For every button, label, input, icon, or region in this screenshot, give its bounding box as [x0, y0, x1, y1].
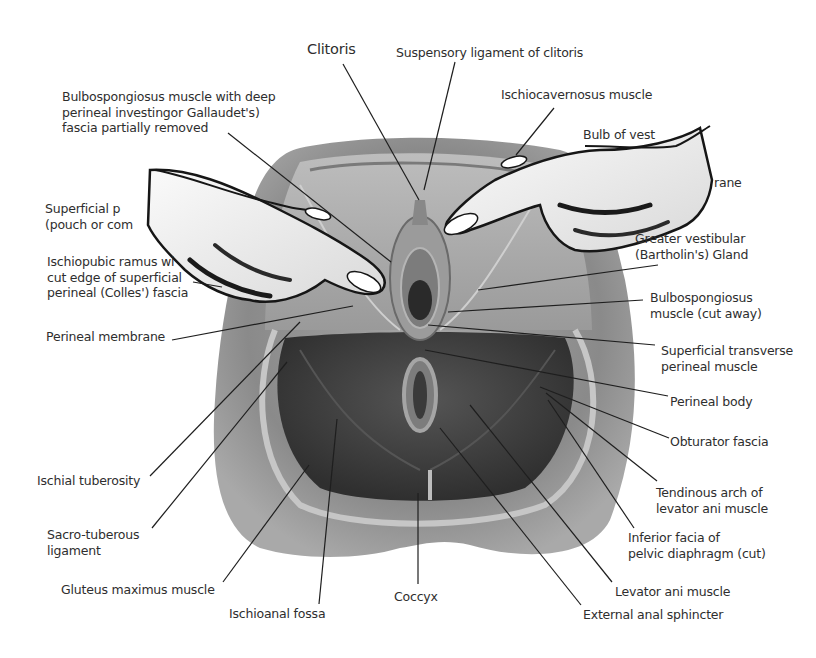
label-line: perineal investingor Gallaudet's) — [62, 105, 276, 121]
label-line: fascia partially removed — [62, 120, 276, 136]
label-suspensory-ligament: Suspensory ligament of clitoris — [396, 45, 583, 61]
label-line: Perineal membrane — [46, 329, 165, 345]
label-line: Bulbospongiosus — [650, 290, 762, 306]
label-line: External anal sphincter — [583, 607, 723, 623]
label-ischioanal-fossa: Ischioanal fossa — [229, 606, 325, 622]
label-levator-ani: Levator ani muscle — [615, 584, 730, 600]
label-inferior-facia: Inferior facia ofpelvic diaphragm (cut) — [628, 530, 766, 561]
label-perineal-membrane: Perineal membrane — [46, 329, 165, 345]
label-line: Suspensory ligament of clitoris — [396, 45, 583, 61]
label-perineal-membrane-right-partial: rane — [714, 175, 742, 191]
label-line: perineal muscle — [661, 359, 793, 375]
label-line: Ischiopubic ramus wi — [47, 254, 188, 270]
label-coccyx: Coccyx — [394, 589, 438, 605]
label-line: Ischioanal fossa — [229, 606, 325, 622]
label-external-anal-sphincter: External anal sphincter — [583, 607, 723, 623]
anatomy-diagram: ClitorisSuspensory ligament of clitorisB… — [0, 0, 816, 658]
label-superficial-pouch: Superficial p(pouch or com — [45, 201, 133, 232]
label-bulbospongiosus-deep: Bulbospongiosus muscle with deepperineal… — [62, 89, 276, 136]
label-ischial-tuberosity: Ischial tuberosity — [37, 473, 140, 489]
label-line: rane — [714, 175, 742, 191]
label-line: Inferior facia of — [628, 530, 766, 546]
label-obturator-fascia: Obturator fascia — [670, 434, 768, 450]
label-line: Perineal body — [670, 394, 752, 410]
label-line: levator ani muscle — [656, 501, 768, 517]
label-clitoris: Clitoris — [307, 42, 356, 58]
label-line: ligament — [47, 543, 139, 559]
label-line: Ischiocavernosus muscle — [501, 87, 652, 103]
label-bulbospongiosus-cut: Bulbospongiosusmuscle (cut away) — [650, 290, 762, 321]
label-line: perineal (Colles') fascia — [47, 285, 188, 301]
label-superficial-transverse: Superficial transverseperineal muscle — [661, 343, 793, 374]
label-greater-vestibular: Greater vestibular(Bartholin's) Gland — [635, 231, 748, 262]
label-line: Obturator fascia — [670, 434, 768, 450]
label-sacro-tuberous: Sacro-tuberousligament — [47, 527, 139, 558]
label-line: Clitoris — [307, 42, 356, 58]
label-bulb-of-vestibule: Bulb of vest — [583, 127, 655, 143]
label-line: Coccyx — [394, 589, 438, 605]
label-line: cut edge of superficial — [47, 270, 188, 286]
label-line: Sacro-tuberous — [47, 527, 139, 543]
label-line: Bulbospongiosus muscle with deep — [62, 89, 276, 105]
label-line: Ischial tuberosity — [37, 473, 140, 489]
label-ischiopubic-ramus: Ischiopubic ramus wicut edge of superfic… — [47, 254, 188, 301]
label-ischiocavernosus: Ischiocavernosus muscle — [501, 87, 652, 103]
label-line: pelvic diaphragm (cut) — [628, 546, 766, 562]
label-line: Levator ani muscle — [615, 584, 730, 600]
label-line: Superficial p — [45, 201, 133, 217]
label-line: Tendinous arch of — [656, 485, 768, 501]
label-line: (pouch or com — [45, 217, 133, 233]
label-line: Superficial transverse — [661, 343, 793, 359]
label-perineal-body: Perineal body — [670, 394, 752, 410]
label-tendinous-arch: Tendinous arch oflevator ani muscle — [656, 485, 768, 516]
label-line: Gluteus maximus muscle — [61, 582, 215, 598]
label-gluteus-maximus: Gluteus maximus muscle — [61, 582, 215, 598]
label-line: muscle (cut away) — [650, 306, 762, 322]
vaginal-orifice — [408, 280, 432, 320]
label-line: (Bartholin's) Gland — [635, 247, 748, 263]
label-line: Bulb of vest — [583, 127, 655, 143]
label-line: Greater vestibular — [635, 231, 748, 247]
